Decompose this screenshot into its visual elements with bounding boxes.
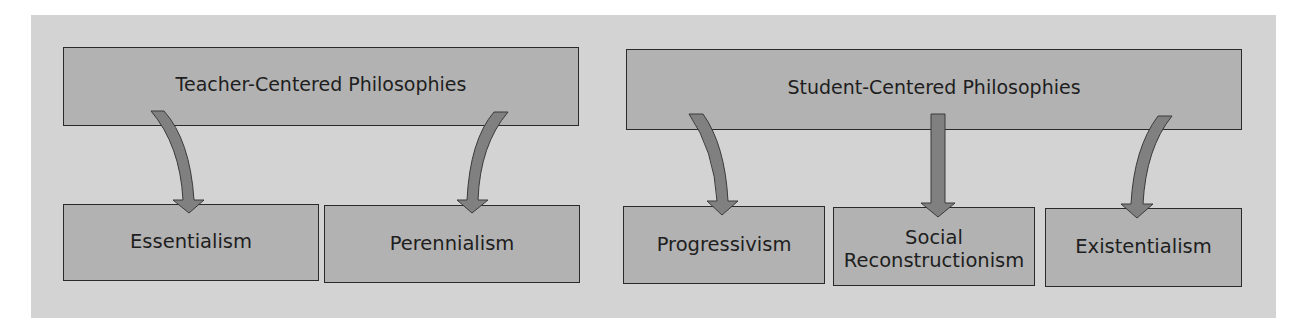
curved-arrow-icon [151, 111, 204, 213]
arrows-layer [0, 0, 1303, 335]
straight-arrow-icon [921, 114, 955, 217]
curved-arrow-icon [1121, 116, 1172, 218]
curved-arrow-icon [689, 114, 738, 215]
curved-arrow-icon [457, 112, 508, 213]
